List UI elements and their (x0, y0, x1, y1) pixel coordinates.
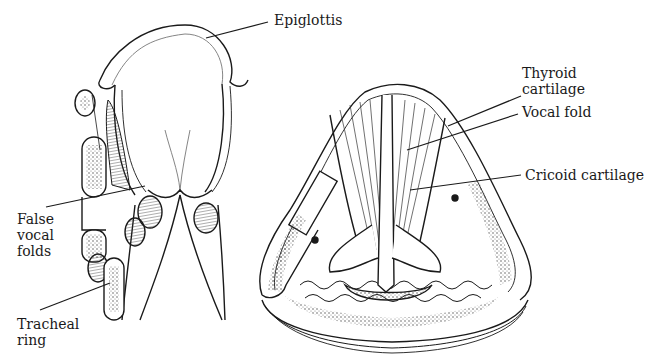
label-tracheal-ring: Tracheal ring (17, 316, 79, 348)
left-larynx-drawing (75, 25, 248, 320)
label-cricoid-cartilage: Cricoid cartilage (525, 167, 644, 183)
label-thyroid-cartilage: Thyroid cartilage (522, 65, 585, 97)
label-false-vocal-folds-line2: vocal (17, 227, 54, 243)
label-false-vocal-folds: False vocal folds (17, 211, 54, 259)
label-tracheal-ring-line2: ring (17, 332, 79, 348)
label-false-vocal-folds-line3: folds (17, 243, 54, 259)
label-epiglottis: Epiglottis (274, 12, 342, 28)
right-leader-lines (407, 96, 521, 190)
label-vocal-fold: Vocal fold (522, 104, 591, 120)
right-larynx-drawing (260, 84, 531, 353)
label-tracheal-ring-line1: Tracheal (17, 316, 79, 332)
label-false-vocal-folds-line1: False (17, 211, 54, 227)
label-thyroid-cartilage-line2: cartilage (522, 81, 585, 97)
left-leader-lines (40, 22, 268, 310)
label-thyroid-cartilage-line1: Thyroid (522, 65, 585, 81)
